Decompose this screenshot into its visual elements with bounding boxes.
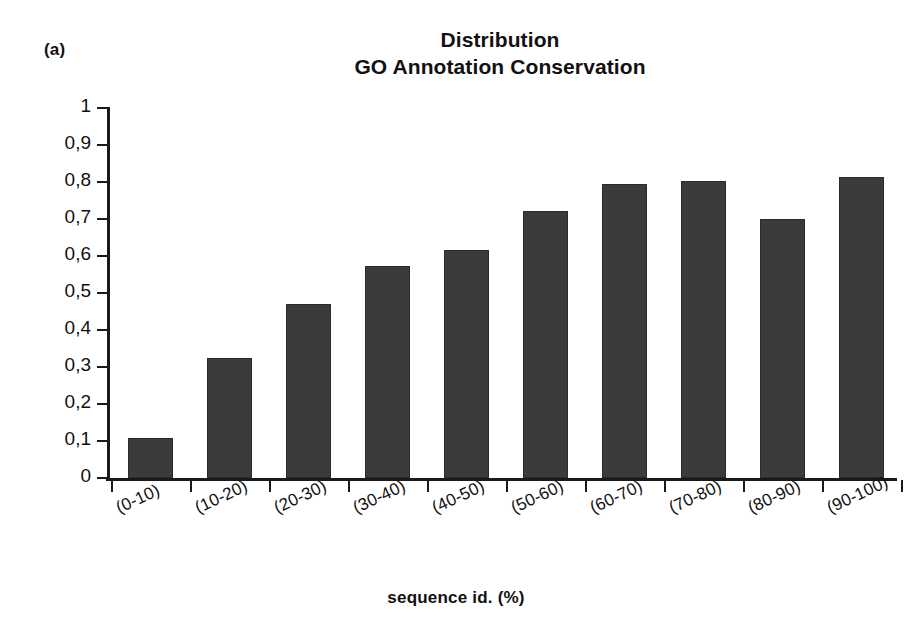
bar — [760, 219, 805, 478]
x-tick-label: (40-50) — [429, 477, 488, 519]
x-tick-mark — [664, 480, 666, 492]
y-tick-label: 0,8 — [65, 170, 91, 190]
x-tick-label: (20-30) — [271, 477, 330, 519]
x-axis-line — [106, 478, 897, 481]
x-tick-mark — [506, 480, 508, 492]
y-tick: 0,2 — [97, 403, 107, 405]
x-tick-label: (80-90) — [745, 477, 804, 519]
bar — [444, 250, 489, 478]
y-tick-mark — [97, 366, 107, 368]
panel-label: (a) — [44, 40, 65, 60]
y-tick-label: 0,7 — [65, 207, 91, 227]
y-tick-label: 0,1 — [65, 429, 91, 449]
y-tick-mark — [97, 292, 107, 294]
x-axis-title: sequence id. (%) — [0, 588, 912, 608]
chart-title-line-2: GO Annotation Conservation — [130, 53, 870, 80]
bar — [286, 304, 331, 478]
x-tick-mark — [427, 480, 429, 492]
x-tick-mark — [743, 480, 745, 492]
y-axis-line — [107, 107, 110, 479]
x-tick-mark — [901, 480, 903, 492]
y-tick-label: 0,5 — [65, 281, 91, 301]
x-tick-mark — [111, 480, 113, 492]
figure: (a) Distribution GO Annotation Conservat… — [0, 0, 912, 636]
x-tick-label: (10-20) — [192, 477, 251, 519]
y-tick: 0 — [97, 477, 107, 479]
y-tick: 0,6 — [97, 255, 107, 257]
y-tick-label: 0,2 — [65, 392, 91, 412]
bar — [523, 211, 568, 479]
plot-area: 00,10,20,30,40,50,60,70,80,91 (0-10)(10-… — [107, 108, 897, 478]
bar — [839, 177, 884, 478]
y-tick-label: 0,6 — [65, 244, 91, 264]
x-tick-mark — [269, 480, 271, 492]
y-tick: 0,3 — [97, 366, 107, 368]
y-tick-mark — [97, 181, 107, 183]
y-tick: 0,9 — [97, 144, 107, 146]
bar — [365, 266, 410, 478]
x-tick-mark — [822, 480, 824, 492]
y-tick-mark — [97, 107, 107, 109]
y-tick-label: 1 — [80, 96, 91, 116]
y-tick-label: 0,9 — [65, 133, 91, 153]
x-tick-mark — [190, 480, 192, 492]
x-tick-mark — [348, 480, 350, 492]
x-tick-label: (70-80) — [666, 477, 725, 519]
bar — [602, 184, 647, 478]
y-tick-mark — [97, 403, 107, 405]
y-tick-mark — [97, 255, 107, 257]
bar — [207, 358, 252, 478]
y-tick-mark — [97, 329, 107, 331]
y-tick-label: 0,3 — [65, 355, 91, 375]
y-tick-label: 0 — [80, 466, 91, 486]
y-tick-mark — [97, 144, 107, 146]
x-tick-label: (30-40) — [350, 477, 409, 519]
y-tick: 0,8 — [97, 181, 107, 183]
x-tick-label: (50-60) — [508, 477, 567, 519]
x-tick-label: (60-70) — [587, 477, 646, 519]
y-tick: 0,1 — [97, 440, 107, 442]
chart-title-line-1: Distribution — [130, 26, 870, 53]
bar — [681, 181, 726, 478]
x-tick-label: (0-10) — [113, 481, 163, 519]
y-tick-mark — [97, 218, 107, 220]
y-tick-mark — [97, 440, 107, 442]
bar — [128, 438, 173, 478]
y-tick: 0,7 — [97, 218, 107, 220]
y-tick: 0,4 — [97, 329, 107, 331]
y-tick: 1 — [97, 107, 107, 109]
chart-title: Distribution GO Annotation Conservation — [130, 26, 870, 81]
y-tick: 0,5 — [97, 292, 107, 294]
x-tick-mark — [585, 480, 587, 492]
y-tick-mark — [97, 477, 107, 479]
y-tick-label: 0,4 — [65, 318, 91, 338]
